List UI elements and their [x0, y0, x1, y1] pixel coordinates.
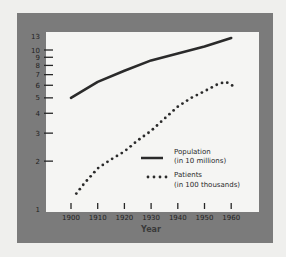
chart: 1234567891013 19001910192019301940195019… — [0, 0, 286, 257]
x-tick-label: 1920 — [115, 214, 133, 222]
patients-dot — [221, 82, 224, 85]
patients-dot — [85, 179, 88, 182]
legend-dot — [159, 176, 162, 179]
x-tick-label: 1960 — [222, 214, 240, 222]
patients-dot — [164, 117, 167, 120]
patients-dot — [176, 105, 179, 108]
patients-dot — [205, 89, 208, 92]
legend-dot — [165, 176, 168, 179]
patients-dot — [138, 138, 141, 141]
patients-dot — [78, 188, 81, 191]
patients-dot — [215, 83, 218, 86]
patients-dot — [181, 102, 184, 105]
legend-dot — [153, 176, 156, 179]
patients-dot — [120, 152, 123, 155]
patients-dot — [129, 145, 132, 148]
y-tick-label: 8 — [36, 62, 40, 70]
y-tick-label: 7 — [36, 71, 40, 79]
patients-dot — [195, 94, 198, 97]
patients-dot — [172, 109, 175, 112]
x-tick-label: 1950 — [196, 214, 214, 222]
legend-sublabel-population: (in 10 millions) — [174, 157, 226, 165]
y-tick-label: 13 — [31, 33, 40, 41]
patients-dot — [134, 141, 137, 144]
patients-dot — [190, 96, 193, 99]
patients-dot — [210, 86, 213, 89]
patients-dot — [116, 155, 119, 158]
y-tick-label: 2 — [36, 158, 40, 166]
y-tick-label: 5 — [36, 94, 40, 102]
patients-dot — [97, 167, 100, 170]
patients-dot — [111, 157, 114, 160]
y-tick-label: 1 — [36, 206, 40, 214]
patients-dot — [231, 84, 234, 87]
patients-dot — [75, 192, 78, 195]
legend-sublabel-patients: (in 100 thousands) — [174, 181, 240, 189]
x-tick-label: 1910 — [89, 214, 107, 222]
patients-dot — [82, 183, 85, 186]
y-tick-label: 4 — [36, 110, 41, 118]
patients-dot — [125, 148, 128, 151]
patients-dot — [147, 131, 150, 134]
x-tick-label: 1940 — [169, 214, 187, 222]
y-tick-label: 6 — [36, 82, 41, 90]
patients-dot — [226, 81, 229, 84]
patients-dot — [168, 113, 171, 116]
legend-label-patients: Patients — [174, 171, 202, 179]
patients-dot — [186, 99, 189, 102]
y-tick-label: 9 — [36, 54, 40, 62]
x-tick-label: 1930 — [142, 214, 160, 222]
y-tick-label: 10 — [31, 47, 40, 55]
patients-dot — [93, 171, 96, 174]
patients-dot — [160, 120, 163, 123]
patients-dot — [101, 164, 104, 167]
y-tick-label: 3 — [36, 130, 40, 138]
patients-dot — [156, 124, 159, 127]
patients-dot — [89, 175, 92, 178]
patients-dot — [151, 128, 154, 131]
legend-dot — [147, 176, 150, 179]
patients-dot — [143, 135, 146, 138]
patients-dot — [200, 91, 203, 94]
x-tick-label: 1900 — [62, 214, 80, 222]
legend-label-population: Population — [174, 148, 211, 156]
x-axis-title: Year — [140, 225, 161, 234]
patients-dot — [106, 160, 109, 163]
